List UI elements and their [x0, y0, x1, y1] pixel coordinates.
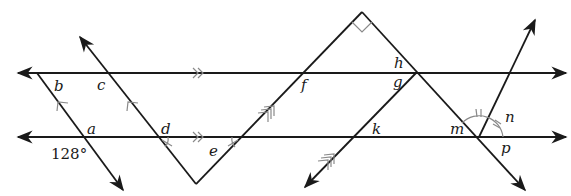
- label-p: p: [501, 139, 511, 157]
- transversal-cd: [80, 37, 196, 184]
- transversal-hm: [362, 12, 525, 190]
- segment-ef: [196, 12, 362, 184]
- label-h: h: [394, 54, 404, 72]
- label-e: e: [209, 142, 218, 160]
- label-a: a: [87, 120, 96, 138]
- angle-mark-m-n: [462, 109, 503, 137]
- right-angle-mark: [352, 22, 372, 32]
- label-n: n: [505, 108, 515, 126]
- label-f: f: [300, 76, 309, 94]
- label-g: g: [393, 73, 403, 91]
- parallel-mark-ef: [258, 106, 274, 122]
- label-b: b: [54, 77, 64, 95]
- transversal-ba: [37, 73, 123, 190]
- label-c: c: [97, 76, 106, 94]
- label-128: 128°: [51, 145, 87, 163]
- parallel-mark-gk: [318, 154, 334, 170]
- label-k: k: [372, 120, 381, 138]
- label-d: d: [161, 120, 171, 138]
- geometry-diagram: b c a 128° d e f h g k m n p: [0, 0, 571, 196]
- label-m: m: [450, 120, 464, 138]
